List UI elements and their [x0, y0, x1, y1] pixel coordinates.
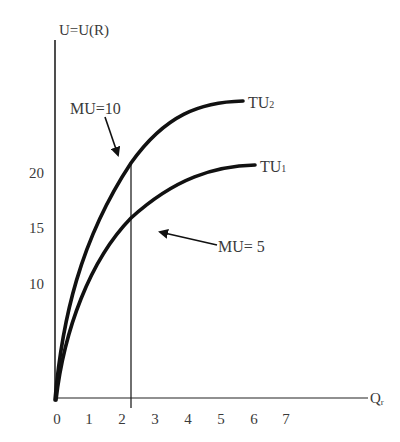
x-tick-labels: 0 1 2 3 4 5 6 7 — [53, 411, 290, 427]
y-tick-label: 15 — [29, 220, 44, 236]
x-tick-label: 4 — [184, 411, 192, 427]
x-axis-title: Qr — [370, 390, 384, 407]
y-axis-title: U=U(R) — [59, 22, 109, 39]
x-tick-label: 3 — [151, 411, 159, 427]
mu10-annotation: MU=10 — [70, 100, 121, 117]
tu2-label: TU2 — [248, 94, 274, 111]
x-tick-label: 6 — [250, 411, 258, 427]
tu2-curve — [55, 101, 243, 400]
tu1-curve — [56, 165, 255, 400]
utility-chart: U=U(R) Qr 0 1 2 3 4 5 6 7 10 15 20 TU2 T… — [0, 0, 400, 442]
y-tick-label: 10 — [29, 276, 44, 292]
y-tick-label: 20 — [29, 165, 44, 181]
mu5-arrow — [160, 232, 217, 245]
x-tick-label: 0 — [53, 411, 61, 427]
mu5-annotation: MU= 5 — [218, 238, 265, 255]
x-tick-label: 1 — [85, 411, 93, 427]
x-tick-label: 2 — [118, 411, 126, 427]
x-tick-label: 5 — [217, 411, 225, 427]
x-tick-label: 7 — [282, 411, 290, 427]
mu10-arrow — [105, 117, 118, 155]
y-tick-labels: 10 15 20 — [29, 165, 44, 292]
tu1-label: TU1 — [260, 158, 286, 175]
